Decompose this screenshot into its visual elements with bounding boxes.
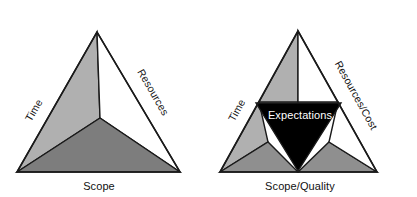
diagram-root: Time Resources Scope Expectations Time R… [0, 0, 417, 197]
right-triangle-left-edge-label-time: Time [226, 97, 248, 123]
left-edge-label-time: Time [22, 97, 44, 123]
expectations-label: Expectations [268, 109, 333, 121]
triangle-diagram-canvas: Time Resources Scope Expectations Time R… [0, 0, 417, 197]
diagram-triple-constraint: Time Resources Scope [17, 32, 180, 192]
base-label-scope: Scope [83, 180, 115, 192]
diagram-expectations: Expectations Time Resources/Cost Scope/Q… [220, 31, 380, 192]
right-triangle-base-label-scope-quality: Scope/Quality [265, 180, 335, 192]
